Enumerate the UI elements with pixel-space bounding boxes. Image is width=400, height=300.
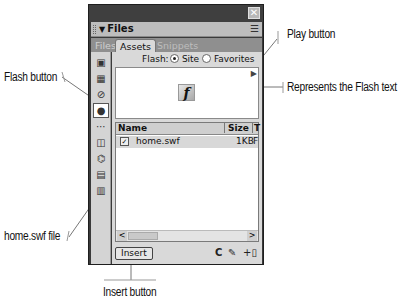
asset-preview: ▶ f (115, 67, 259, 119)
collapse-arrow-icon: ▼ (99, 25, 105, 34)
play-icon[interactable]: ▶ (251, 69, 257, 78)
scripts-icon[interactable]: ⌬ (94, 152, 108, 165)
site-radio[interactable]: Site (170, 54, 199, 64)
swf-file-icon: ✓ (120, 137, 129, 146)
grip-handle-icon[interactable] (93, 25, 96, 34)
panel-titlebar[interactable]: ✕ (89, 5, 263, 22)
flash-filter-row: Flash: Site Favorites (112, 54, 262, 66)
panel-title-text: Files (107, 23, 133, 34)
callout-home-swf: home.swf file (4, 229, 60, 243)
radio-unselected-icon[interactable] (202, 54, 211, 63)
column-size[interactable]: Size (224, 123, 252, 133)
favorites-radio[interactable]: Favorites (202, 54, 255, 64)
add-to-favorites-icon[interactable]: +▯ (243, 247, 257, 258)
flash-filter-label: Flash: (142, 54, 169, 64)
panel-header[interactable]: ▼Files ☰ (91, 22, 262, 37)
list-header: Name Size T (116, 123, 258, 135)
radio-selected-icon[interactable] (170, 54, 179, 63)
tab-bar: Files Assets Snippets (91, 38, 262, 52)
file-name: home.swf (136, 136, 180, 146)
colors-icon[interactable]: ▦ (94, 72, 108, 85)
callout-flash-text: Represents the Flash text (287, 80, 397, 94)
assets-footer: Insert C ✎ +▯ (112, 245, 262, 262)
callout-insert-button: Insert button (103, 285, 156, 299)
library-icon[interactable]: ▥ (94, 184, 108, 197)
files-panel: ✕ ▼Files ☰ Files Assets Snippets ▣ ▦ ⊘ ●… (88, 4, 264, 265)
scroll-thumb[interactable] (128, 232, 158, 240)
panel-title[interactable]: ▼Files (99, 23, 134, 34)
asset-category-sidebar: ▣ ▦ ⊘ ● ⋯ ◫ ⌬ ▤ ▥ (91, 52, 111, 264)
list-item[interactable]: ✓ home.swf 1KB F (116, 136, 258, 148)
images-icon[interactable]: ▣ (94, 56, 108, 69)
shockwave-icon[interactable]: ⋯ (94, 120, 108, 133)
asset-list: Name Size T ✓ home.swf 1KB F < > (115, 122, 259, 242)
horizontal-scrollbar[interactable]: < > (116, 230, 258, 241)
options-menu-icon[interactable]: ☰ (250, 23, 259, 34)
tab-assets[interactable]: Assets (115, 39, 156, 52)
tab-snippets[interactable]: Snippets (153, 39, 202, 52)
edit-icon[interactable]: ✎ (228, 247, 236, 258)
file-size: 1KB (236, 136, 254, 146)
file-type: F (253, 136, 258, 146)
close-icon[interactable]: ✕ (248, 7, 260, 19)
movies-icon[interactable]: ◫ (94, 136, 108, 149)
templates-icon[interactable]: ▤ (94, 168, 108, 181)
column-type[interactable]: T (252, 123, 260, 133)
scroll-right-icon[interactable]: > (247, 231, 257, 241)
callout-flash-button: Flash button (4, 70, 57, 84)
scroll-left-icon[interactable]: < (117, 231, 127, 241)
flash-button-icon[interactable]: ● (93, 103, 109, 118)
favorites-radio-label: Favorites (214, 54, 255, 64)
site-radio-label: Site (182, 54, 199, 64)
assets-content: Flash: Site Favorites ▶ f Name Size T ✓ … (112, 52, 262, 264)
urls-icon[interactable]: ⊘ (94, 88, 108, 101)
refresh-icon[interactable]: C (215, 247, 222, 258)
flash-logo-icon: f (178, 84, 195, 101)
column-name[interactable]: Name (118, 123, 147, 133)
callout-play-button: Play button (287, 27, 335, 41)
insert-button[interactable]: Insert (115, 247, 153, 260)
